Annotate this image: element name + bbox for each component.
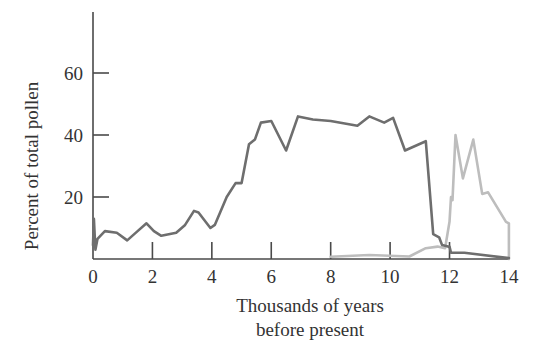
y-tick-label: 40: [64, 125, 83, 146]
x-tick-label: 2: [148, 266, 158, 287]
light-series-line: [331, 135, 509, 259]
x-tick-label: 14: [499, 266, 519, 287]
x-tick-label: 10: [381, 266, 400, 287]
axes: [93, 12, 509, 259]
x-axis-title-line-1: Thousands of years: [190, 294, 430, 318]
x-tick-label: 8: [326, 266, 336, 287]
x-tick-label: 6: [267, 266, 277, 287]
x-axis-title-line-2: before present: [190, 318, 430, 342]
y-axis-title: Percent of total pollen: [21, 82, 43, 250]
data-series: [93, 116, 509, 259]
y-tick-label: 20: [64, 187, 83, 208]
x-tick-label: 0: [88, 266, 98, 287]
x-tick-label: 4: [207, 266, 217, 287]
x-tick-label: 12: [440, 266, 459, 287]
y-tick-label: 60: [64, 63, 83, 84]
